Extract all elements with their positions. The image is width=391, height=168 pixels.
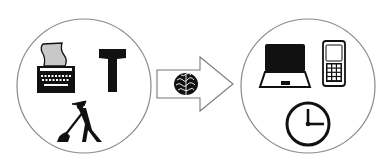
laptop-icon: [260, 44, 310, 87]
brain-icon: [174, 73, 198, 95]
diagram-canvas: [0, 0, 391, 168]
left-group-traditional-work: [17, 19, 151, 153]
clock-icon: [287, 103, 329, 145]
transition-arrow: [157, 57, 233, 111]
mobile-phone-icon: [323, 41, 345, 86]
right-group-digital-work: [241, 19, 375, 153]
